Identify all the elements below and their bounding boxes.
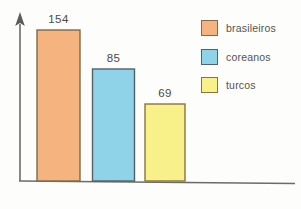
bar-value-label-brasileiros: 154 <box>37 13 80 25</box>
legend-swatch-icon-turcos <box>201 77 218 93</box>
bar-turcos <box>145 104 185 181</box>
bar-coreanos <box>93 69 135 181</box>
legend-label-turcos: turcos <box>226 79 256 91</box>
legend-item-turcos: turcos <box>201 76 297 94</box>
legend-label-coreanos: coreanos <box>226 51 271 63</box>
chart-legend: brasileiros coreanos turcos <box>201 19 297 105</box>
bar-value-label-coreanos: 85 <box>93 52 135 64</box>
y-axis <box>15 12 25 181</box>
legend-item-coreanos: coreanos <box>201 48 297 66</box>
bar-chart: 154 85 69 brasileiros coreanos turcos <box>0 0 301 209</box>
bar-brasileiros <box>37 30 80 181</box>
legend-swatch-icon-coreanos <box>201 49 218 65</box>
legend-label-brasileiros: brasileiros <box>226 22 276 34</box>
legend-item-brasileiros: brasileiros <box>201 19 297 37</box>
y-axis-arrow-icon <box>15 12 25 26</box>
bar-value-label-turcos: 69 <box>145 87 185 99</box>
legend-swatch-icon-brasileiros <box>201 20 218 36</box>
